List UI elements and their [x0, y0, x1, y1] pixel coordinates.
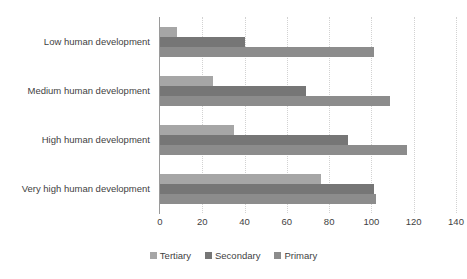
- x-tick-label: 0: [157, 216, 162, 227]
- y-axis-line: [159, 17, 160, 214]
- bars-layer: [160, 17, 456, 213]
- plot-area: [160, 17, 456, 213]
- bar-primary-low-human-development: [160, 47, 374, 57]
- bar-primary-very-high-human-development: [160, 194, 376, 204]
- bar-chart: Low human developmentMedium human develo…: [0, 0, 467, 279]
- x-tick-label: 100: [363, 216, 379, 227]
- category-label: Medium human development: [0, 86, 150, 96]
- bar-secondary-low-human-development: [160, 37, 245, 47]
- x-tick-label: 40: [239, 216, 250, 227]
- bar-tertiary-very-high-human-development: [160, 174, 321, 184]
- x-axis-tick-labels: 020406080100120140: [160, 216, 460, 230]
- x-tick-label: 80: [324, 216, 335, 227]
- legend-swatch-icon: [205, 252, 212, 259]
- bar-secondary-very-high-human-development: [160, 184, 374, 194]
- category-axis: Low human developmentMedium human develo…: [0, 17, 155, 213]
- x-tick-label: 60: [282, 216, 293, 227]
- bar-tertiary-medium-human-development: [160, 76, 213, 86]
- bar-secondary-high-human-development: [160, 135, 348, 145]
- legend-item-secondary[interactable]: Secondary: [205, 250, 260, 261]
- x-tick-label: 20: [197, 216, 208, 227]
- bar-secondary-medium-human-development: [160, 86, 306, 96]
- category-label: High human development: [0, 135, 150, 145]
- bar-tertiary-low-human-development: [160, 27, 177, 37]
- legend-item-primary[interactable]: Primary: [274, 250, 317, 261]
- category-label: Low human development: [0, 37, 150, 47]
- x-tick-label: 140: [448, 216, 464, 227]
- chart-legend: TertiarySecondaryPrimary: [0, 250, 467, 261]
- legend-label: Tertiary: [160, 250, 191, 261]
- legend-swatch-icon: [150, 252, 157, 259]
- category-label: Very high human development: [0, 184, 150, 194]
- x-tick-label: 120: [406, 216, 422, 227]
- legend-label: Secondary: [215, 250, 260, 261]
- legend-swatch-icon: [274, 252, 281, 259]
- legend-label: Primary: [284, 250, 317, 261]
- legend-item-tertiary[interactable]: Tertiary: [150, 250, 191, 261]
- bar-primary-medium-human-development: [160, 96, 390, 106]
- bar-primary-high-human-development: [160, 145, 407, 155]
- gridline: [456, 17, 457, 213]
- bar-tertiary-high-human-development: [160, 125, 234, 135]
